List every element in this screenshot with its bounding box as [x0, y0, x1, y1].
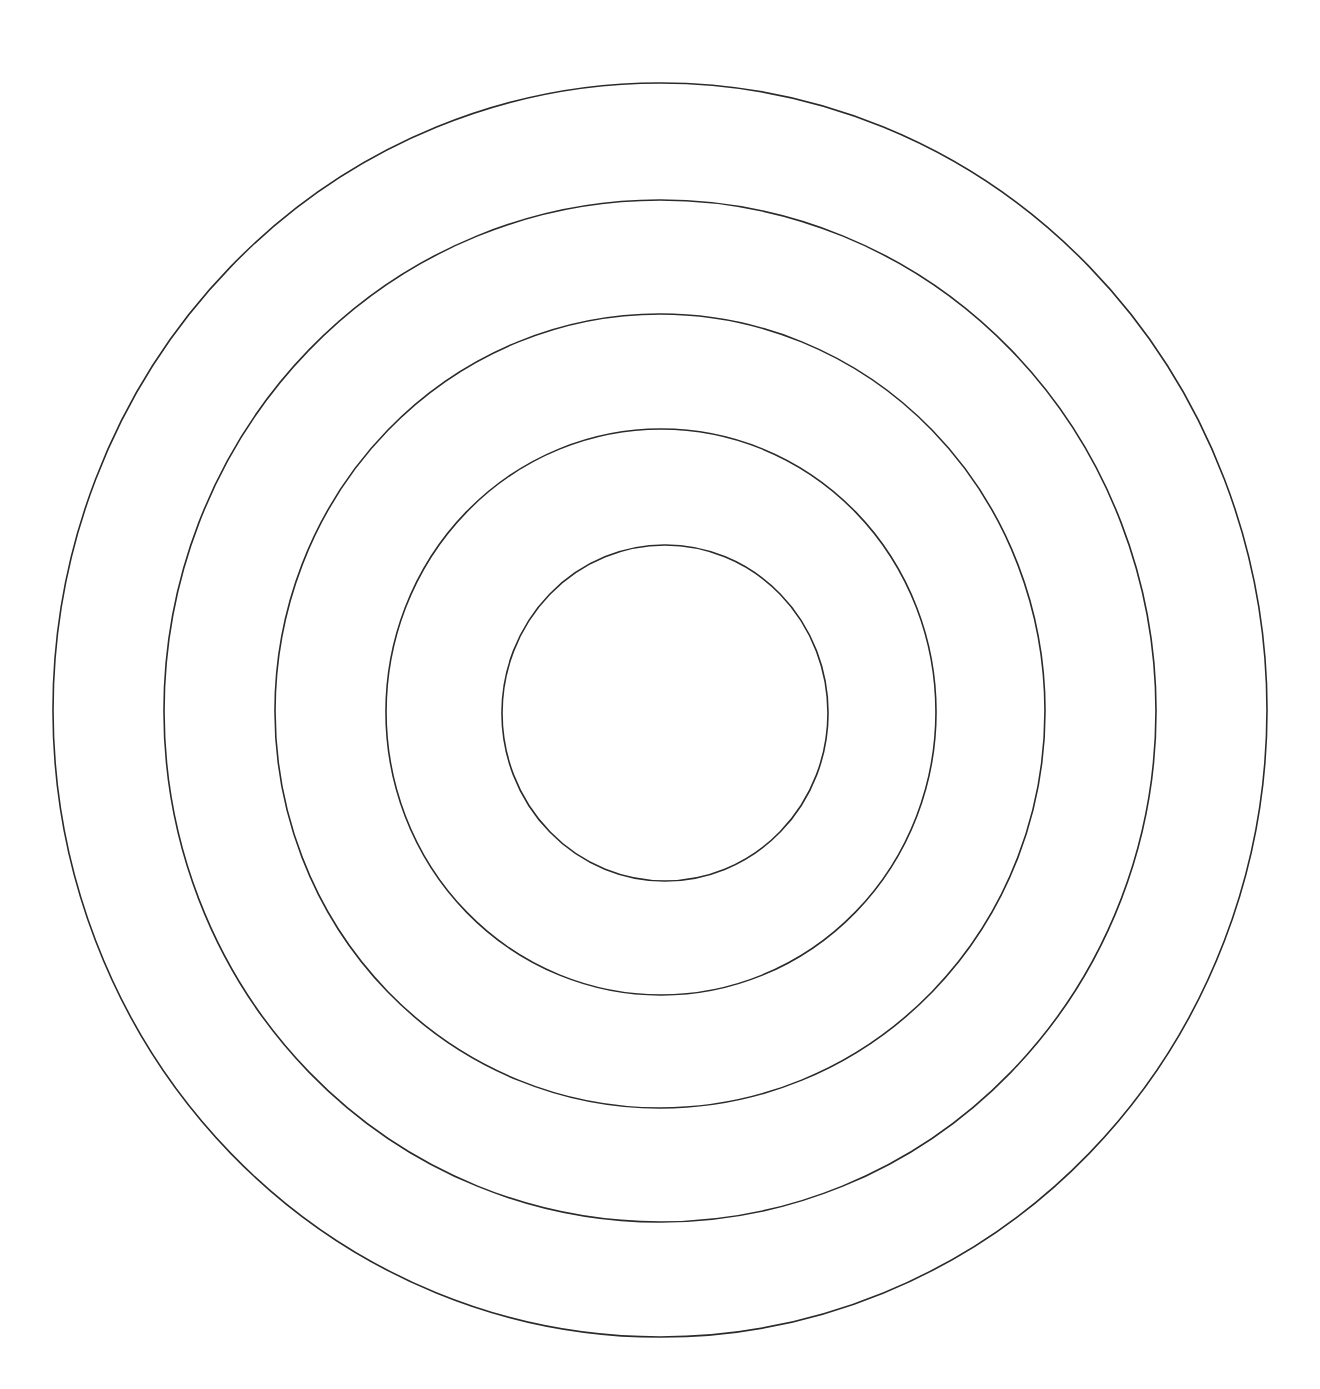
ring-3	[275, 314, 1045, 1108]
concentric-circles-diagram	[0, 0, 1320, 1389]
ring-4	[386, 429, 936, 995]
ring-5-inner	[502, 545, 828, 881]
ring-2	[164, 200, 1156, 1222]
ring-1-outer	[53, 83, 1267, 1337]
